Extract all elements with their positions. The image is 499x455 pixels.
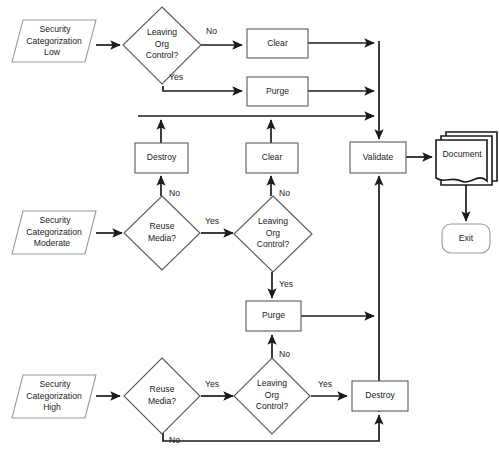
decision-moderate-leaving-line2: Org [266,228,281,238]
node-purge-moderate[interactable]: Purge [246,301,301,331]
node-decision-high-reuse[interactable]: Reuse Media? [124,358,200,434]
start-high-line2: Categorization [26,391,82,401]
start-low-line2: Categorization [26,36,82,46]
flowchart-canvas: Security Categorization Low Leaving Org … [0,0,499,455]
exit-label: Exit [459,233,474,243]
decision-low-leaving-line2: Org [155,39,170,49]
node-validate[interactable]: Validate [350,142,406,173]
start-moderate-line2: Categorization [26,227,82,237]
destroy-high-label: Destroy [365,390,395,400]
node-document[interactable]: Document [436,132,497,185]
start-moderate-line3: Moderate [34,238,71,248]
node-decision-high-leaving[interactable]: Leaving Org Control? [234,358,310,434]
start-moderate-line1: Security [39,215,71,225]
node-decision-low-leaving[interactable]: Leaving Org Control? [123,7,201,84]
label-low-no: No [206,26,217,36]
label-low-yes: Yes [169,72,183,82]
node-destroy-moderate[interactable]: Destroy [135,143,188,173]
label-high-reuse-yes: Yes [205,379,219,389]
decision-high-leaving-line2: Org [265,390,280,400]
media-sanitization-flowchart: Security Categorization Low Leaving Org … [0,0,499,455]
decision-moderate-reuse-line1: Reuse [150,221,175,231]
validate-label: Validate [363,152,394,162]
label-high-reuse-no: No [169,435,180,445]
node-start-high[interactable]: Security Categorization High [12,375,96,418]
start-low-line1: Security [39,24,71,34]
document-label: Document [442,149,482,159]
decision-high-leaving-line3: Control? [256,401,289,411]
start-high-line1: Security [39,379,71,389]
node-exit[interactable]: Exit [442,224,490,253]
decision-high-leaving-line1: Leaving [257,378,287,388]
start-high-line3: High [43,402,61,412]
decision-high-reuse-line2: Media? [148,396,176,406]
node-purge-low[interactable]: Purge [247,77,308,106]
clear-moderate-label: Clear [262,152,283,162]
label-moderate-leaving-no: No [279,188,290,198]
node-start-low[interactable]: Security Categorization Low [12,20,96,62]
label-moderate-leaving-yes: Yes [279,279,293,289]
label-moderate-reuse-yes: Yes [205,216,219,226]
decision-low-leaving-line1: Leaving [147,27,177,37]
clear-low-label: Clear [267,38,288,48]
node-clear-low[interactable]: Clear [247,29,308,58]
destroy-moderate-label: Destroy [147,152,177,162]
decision-moderate-leaving-line3: Control? [257,239,290,249]
purge-low-label: Purge [266,86,289,96]
decision-moderate-leaving-line1: Leaving [258,216,288,226]
decision-low-leaving-line3: Control? [146,50,179,60]
node-clear-moderate[interactable]: Clear [246,143,298,173]
decision-high-reuse-line1: Reuse [150,384,175,394]
node-start-moderate[interactable]: Security Categorization Moderate [12,211,96,254]
label-high-leaving-no: No [279,349,290,359]
start-low-line3: Low [44,47,61,57]
node-destroy-high[interactable]: Destroy [352,381,408,411]
node-decision-moderate-leaving[interactable]: Leaving Org Control? [234,196,312,272]
decision-moderate-reuse-line2: Media? [148,233,176,243]
node-decision-moderate-reuse[interactable]: Reuse Media? [124,196,200,270]
purge-moderate-label: Purge [262,310,285,320]
edge-low-yes-to-purge [163,86,242,91]
label-high-leaving-yes: Yes [318,379,332,389]
label-moderate-reuse-no: No [169,188,180,198]
